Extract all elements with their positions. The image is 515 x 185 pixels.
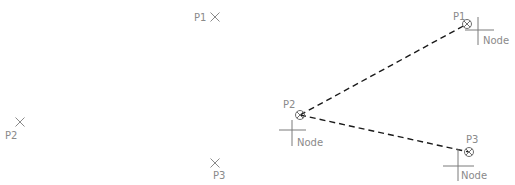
- node-label: Node: [297, 137, 323, 148]
- node-p3: P3Node: [443, 134, 487, 181]
- diagram-canvas: P1P2P3 P1NodeP2NodeP3Node: [0, 0, 515, 185]
- point-p3: P3: [211, 159, 226, 182]
- right-node-set: P1NodeP2NodeP3Node: [279, 11, 509, 181]
- dashed-connection-p2-p1: [300, 24, 467, 115]
- point-label: P2: [283, 99, 295, 110]
- point-p2: P2: [5, 118, 25, 142]
- x-mark-icon: [211, 159, 220, 168]
- x-mark-icon: [211, 13, 220, 22]
- node-snap-marker-icon: [465, 148, 474, 157]
- dashed-connection-p2-p3: [300, 115, 469, 152]
- point-label: P1: [453, 11, 465, 22]
- point-label: P3: [213, 170, 225, 181]
- x-mark-icon: [16, 118, 25, 127]
- left-point-set: P1P2P3: [5, 12, 225, 181]
- node-p1: P1Node: [453, 11, 509, 46]
- point-label: P3: [466, 134, 478, 145]
- node-label: Node: [483, 35, 509, 46]
- point-label: P1: [194, 12, 206, 23]
- node-p2: P2Node: [279, 99, 323, 148]
- point-label: P2: [5, 130, 17, 141]
- point-p1: P1: [194, 12, 220, 23]
- node-label: Node: [461, 170, 487, 181]
